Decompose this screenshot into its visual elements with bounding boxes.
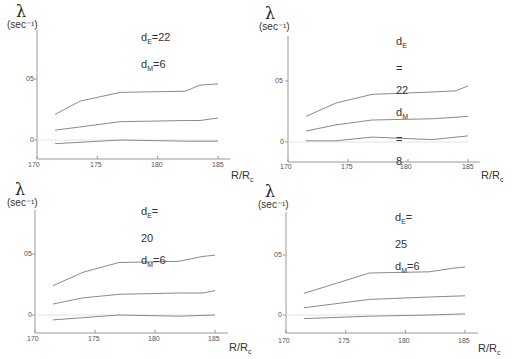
series-line-middle: [53, 291, 215, 304]
y-tick-05: 05: [274, 251, 282, 258]
y-axis-unit: (sec⁻¹): [258, 199, 289, 210]
chart-canvas: [0, 0, 512, 359]
x-axis-title: R/Rc: [481, 169, 503, 183]
x-tick-175: 175: [341, 163, 353, 170]
y-tick-0: 0: [30, 136, 34, 143]
x-tick-185: 185: [458, 337, 470, 344]
param-dm: 6: [159, 254, 165, 266]
panel-params: dE= 20 dM=6: [141, 200, 166, 276]
panel-params: dE = 22 dM = 8: [396, 30, 408, 172]
series-line-lower: [53, 315, 215, 320]
y-tick-0: 0: [278, 311, 282, 318]
y-axis-unit: (sec⁻¹): [7, 19, 38, 30]
series-line-lower: [55, 140, 218, 144]
series-line-upper: [55, 84, 218, 115]
param-dm: 6: [159, 58, 165, 70]
series-line-lower: [306, 136, 468, 141]
x-tick-185: 185: [212, 161, 224, 168]
y-tick-0: 0: [28, 311, 32, 318]
param-dm: 6: [413, 260, 419, 272]
x-axis-title: R/Rc: [229, 341, 251, 355]
param-de: 22: [396, 84, 408, 96]
panel-params: dE=22 dM=6: [141, 26, 170, 80]
param-de: 25: [395, 238, 407, 250]
series-line-middle: [306, 116, 468, 131]
x-tick-180: 180: [400, 163, 412, 170]
x-tick-170: 170: [278, 337, 290, 344]
x-tick-180: 180: [151, 161, 163, 168]
x-tick-175: 175: [88, 335, 100, 342]
y-axis-unit: (sec⁻¹): [259, 21, 290, 32]
x-tick-175: 175: [90, 161, 102, 168]
param-de: 22: [158, 31, 170, 43]
param-de: 20: [141, 232, 153, 244]
x-tick-180: 180: [148, 335, 160, 342]
x-tick-175: 175: [338, 337, 350, 344]
series-line-middle: [55, 118, 218, 130]
y-tick-05: 05: [24, 250, 32, 257]
series-line-upper: [304, 267, 465, 293]
x-tick-170: 170: [280, 163, 292, 170]
series-line-middle: [304, 296, 465, 308]
y-axis-unit: (sec⁻¹): [7, 197, 38, 208]
x-axis-title: R/Rc: [478, 342, 500, 356]
y-tick-0: 0: [280, 138, 284, 145]
x-tick-185: 185: [462, 163, 474, 170]
x-tick-185: 185: [208, 335, 220, 342]
x-tick-180: 180: [398, 337, 410, 344]
series-line-upper: [53, 255, 215, 286]
y-tick-05: 05: [26, 75, 34, 82]
x-tick-170: 170: [27, 335, 39, 342]
panel-params: dE= 25 dM=6: [395, 206, 420, 282]
series-line-upper: [306, 86, 468, 117]
x-axis-title: R/Rc: [231, 169, 253, 183]
x-tick-170: 170: [28, 161, 40, 168]
y-tick-05: 05: [275, 77, 283, 84]
